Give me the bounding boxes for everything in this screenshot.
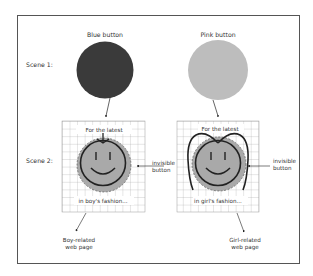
invisible-button-right[interactable]: [192, 137, 246, 191]
girl-result-label-2: web page: [231, 244, 259, 251]
arrow-blue-to-page: [106, 98, 110, 116]
blue-button-label: Blue button: [87, 31, 123, 38]
invisible-button-right-label-2: button: [273, 165, 292, 171]
scene-2-label: Scene 2:: [26, 157, 53, 164]
arrow-pink-to-page: [213, 100, 218, 116]
girl-page-bottom-text: in girl's fashion...: [194, 198, 242, 205]
arrow-to-boy-page: [76, 213, 86, 231]
invisible-button-left-label-1: invisible: [152, 160, 176, 166]
boy-page-top-text: For the latest: [85, 127, 123, 133]
arrow-to-girl-page: [237, 213, 244, 232]
boy-page-bottom-text: in boy's fashion...: [78, 198, 127, 205]
pink-button-label: Pink button: [200, 31, 235, 38]
invisible-button-left-label-2: button: [152, 167, 171, 173]
pink-button[interactable]: [188, 40, 248, 100]
invisible-button-left[interactable]: [77, 138, 131, 192]
girl-page-top-text: For the latest: [201, 126, 239, 132]
boy-result-label-2: web page: [65, 244, 93, 251]
blue-button[interactable]: [77, 42, 134, 99]
scene-1-label: Scene 1:: [26, 61, 53, 68]
girl-page-mockup: For the latest in girl's fashion...: [177, 121, 259, 212]
diagram-canvas: Scene 1: Scene 2: Blue button Pink butto…: [0, 0, 313, 276]
boy-result-label-1: Boy-related: [63, 237, 96, 244]
girl-result-label-1: Girl-related: [229, 237, 261, 243]
boy-page-mockup: For the latest in boy's fashion...: [62, 121, 145, 212]
invisible-button-right-label-1: invisible: [273, 158, 297, 164]
